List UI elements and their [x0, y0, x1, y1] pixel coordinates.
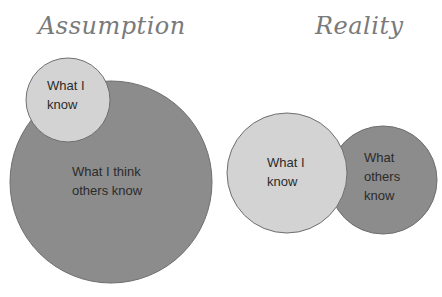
- assumption-self-label: What I know: [47, 76, 85, 114]
- assumption-others-label: What I think others know: [72, 162, 142, 200]
- reality-others-label: What others know: [364, 148, 400, 205]
- reality-self-label: What I know: [267, 153, 305, 191]
